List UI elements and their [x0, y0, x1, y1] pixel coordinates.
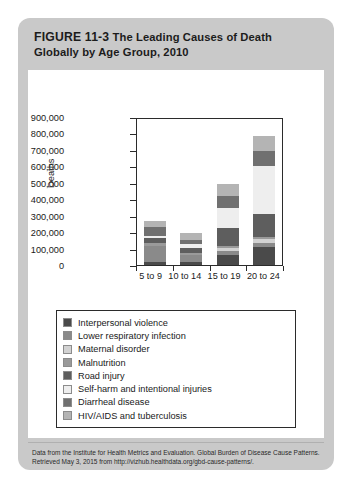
legend-swatch	[63, 345, 72, 354]
legend-label: Self-harm and intentional injuries	[78, 384, 212, 394]
source-note: Data from the Institute for Health Metri…	[32, 448, 324, 467]
bar-segment	[253, 166, 275, 214]
legend-swatch	[63, 358, 72, 367]
bar-segment	[217, 228, 239, 246]
y-tick-label: 400,000	[31, 195, 64, 205]
legend-label: Road injury	[78, 371, 124, 381]
bar-group	[137, 119, 282, 265]
legend-item: Maternal disorder	[63, 343, 289, 356]
bar-segment	[217, 184, 239, 196]
legend-item: Interpersonal violence	[63, 316, 289, 329]
legend-swatch	[63, 318, 72, 327]
figure-title: FIGURE 11-3 The Leading Causes of Death …	[34, 30, 320, 59]
legend-swatch	[63, 398, 72, 407]
legend-item: Self-harm and intentional injuries	[63, 382, 289, 395]
legend-label: HIV/AIDS and tuberculosis	[78, 411, 187, 421]
y-tick-label: 0	[59, 261, 64, 271]
y-tick-label: 100,000	[31, 245, 64, 255]
y-tick-label: 300,000	[31, 212, 64, 222]
legend-swatch	[63, 371, 72, 380]
stacked-bar-chart: Deaths 0100,000200,000300,000400,000500,…	[28, 70, 324, 270]
bar-segment	[253, 151, 275, 165]
x-tick-mark	[283, 266, 284, 271]
y-tick-label: 200,000	[31, 228, 64, 238]
legend-label: Lower respiratory infection	[78, 331, 186, 341]
bar-segment	[217, 196, 239, 208]
bar-segment	[180, 233, 202, 240]
legend-swatch	[63, 411, 72, 420]
bar-segment	[217, 208, 239, 229]
stacked-bar	[253, 136, 275, 265]
plot-area	[136, 118, 283, 266]
legend-label: Maternal disorder	[78, 344, 150, 354]
legend-swatch	[63, 385, 72, 394]
stacked-bar	[180, 233, 202, 265]
chart-legend: Interpersonal violenceLower respiratory …	[56, 310, 296, 428]
bar-segment	[253, 247, 275, 265]
legend-item: Lower respiratory infection	[63, 329, 289, 342]
legend-item: Malnutrition	[63, 356, 289, 369]
note-divider	[28, 442, 324, 443]
x-axis-labels: 5 to 910 to 1415 to 1920 to 24	[136, 271, 283, 281]
x-tick-label: 15 to 19	[208, 271, 241, 281]
stacked-bar	[217, 184, 239, 265]
figure-card: FIGURE 11-3 The Leading Causes of Death …	[18, 18, 334, 470]
y-tick-label: 800,000	[31, 129, 64, 139]
legend-item: Road injury	[63, 369, 289, 382]
legend-label: Interpersonal violence	[78, 318, 168, 328]
legend-item: HIV/AIDS and tuberculosis	[63, 409, 289, 422]
y-tick-label: 500,000	[31, 179, 64, 189]
bar-segment	[144, 262, 166, 265]
legend-swatch	[63, 331, 72, 340]
bar-segment	[180, 262, 202, 265]
bar-segment	[144, 227, 166, 236]
y-tick-label: 600,000	[31, 162, 64, 172]
x-tick-label: 5 to 9	[139, 271, 162, 281]
legend-label: Malnutrition	[78, 358, 126, 368]
y-tick-label: 900,000	[31, 113, 64, 123]
bar-segment	[253, 214, 275, 237]
legend-label: Diarrheal disease	[78, 397, 150, 407]
bar-segment	[180, 255, 202, 262]
y-tick-label: 700,000	[31, 146, 64, 156]
bar-segment	[217, 255, 239, 265]
figure-number: FIGURE 11-3	[34, 30, 109, 44]
stacked-bar	[144, 221, 166, 265]
bar-segment	[144, 246, 166, 262]
bar-segment	[253, 136, 275, 151]
chart-panel: Deaths 0100,000200,000300,000400,000500,…	[28, 70, 324, 438]
legend-item: Diarrheal disease	[63, 396, 289, 409]
x-tick-label: 20 to 24	[247, 271, 280, 281]
x-tick-label: 10 to 14	[168, 271, 201, 281]
